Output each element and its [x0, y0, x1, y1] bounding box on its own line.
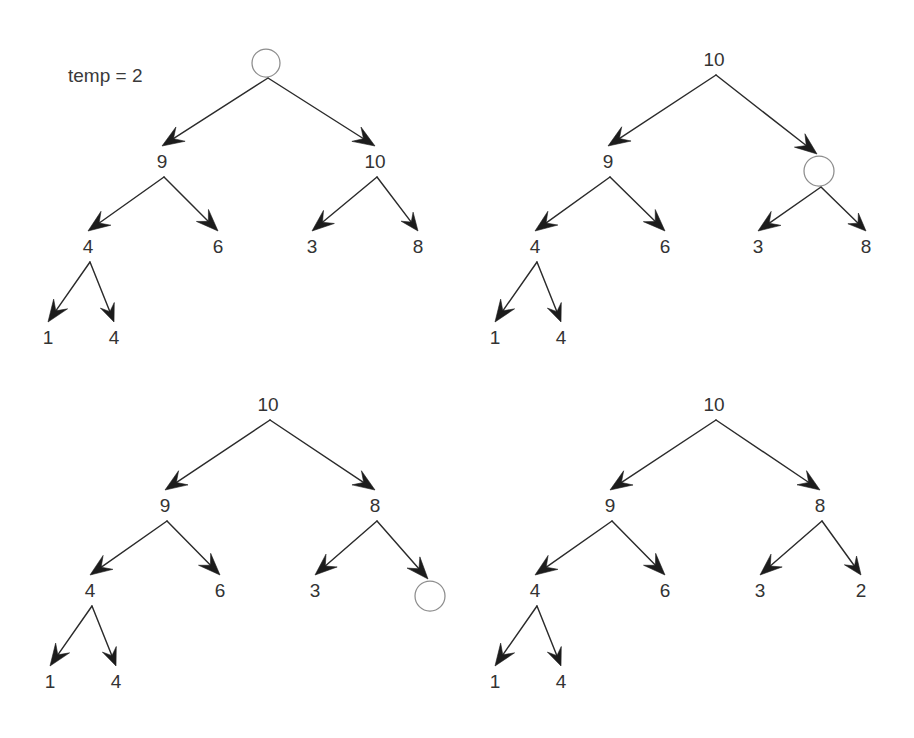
tree-edge: [57, 606, 92, 656]
node-value-label: 8: [413, 236, 424, 257]
tree-edge: [821, 187, 859, 224]
node-value-label: 4: [530, 236, 541, 257]
tree-edge: [167, 521, 212, 566]
node-value-label: 9: [603, 151, 614, 172]
node-value-label: 4: [530, 580, 541, 601]
node-value-label: 4: [85, 580, 96, 601]
tree-edge: [502, 606, 537, 656]
binary-tree-diagram: 9104638141094638141098463141098463214 te…: [0, 0, 914, 738]
tree-edge: [90, 262, 110, 313]
node-value-label: 6: [660, 580, 671, 601]
node-value-label: 10: [257, 394, 278, 415]
tree-step-2-nodes: 109463814: [490, 49, 872, 348]
tree-edge: [268, 78, 365, 140]
edge-arrowhead-icon: [797, 471, 820, 490]
tree-edge: [545, 521, 612, 568]
edge-arrowhead-icon: [50, 643, 70, 666]
edge-arrowhead-icon: [758, 211, 781, 231]
trees-group: 9104638141094638141098463141098463214: [43, 49, 872, 692]
node-value-label: 1: [45, 671, 56, 692]
edge-arrowhead-icon: [608, 127, 631, 146]
edge-arrowhead-icon: [312, 210, 334, 231]
node-value-label: 10: [364, 151, 385, 172]
tree-edge: [716, 420, 810, 483]
edge-arrowhead-icon: [535, 555, 558, 575]
node-value-label: 2: [856, 580, 867, 601]
tree-edge: [172, 78, 268, 139]
node-value-label: 8: [861, 236, 872, 257]
empty-node-circle[interactable]: [415, 581, 445, 611]
empty-node-circle[interactable]: [804, 156, 834, 186]
edge-arrowhead-icon: [844, 556, 861, 575]
node-value-label: 1: [43, 327, 54, 348]
node-value-label: 3: [755, 580, 766, 601]
edge-arrowhead-icon: [495, 643, 515, 666]
tree-edge: [610, 177, 656, 223]
tree-edge: [822, 521, 855, 567]
tree-step-1-nodes: 910463814: [43, 49, 424, 348]
edge-arrowhead-icon: [48, 299, 68, 322]
tree-step-4-nodes: 1098463214: [490, 394, 867, 692]
tree-edge: [55, 262, 90, 312]
node-value-label: 3: [307, 236, 318, 257]
tree-step-1-edges: [48, 78, 418, 322]
tree-edge: [612, 521, 657, 566]
tree-edge: [377, 521, 420, 570]
tree-edge: [716, 75, 807, 147]
node-value-label: 10: [703, 49, 724, 70]
tree-edge: [270, 420, 365, 483]
tree-step-4: 1098463214: [490, 394, 867, 692]
edge-arrowhead-icon: [352, 471, 375, 490]
edge-arrowhead-icon: [352, 127, 375, 146]
tree-edge: [620, 420, 716, 483]
tree-edge: [377, 177, 412, 223]
node-value-label: 4: [556, 671, 567, 692]
node-value-label: 9: [605, 495, 616, 516]
node-value-label: 9: [157, 151, 168, 172]
tree-step-2: 109463814: [490, 49, 872, 348]
node-value-label: 10: [703, 394, 724, 415]
tree-edge: [321, 177, 377, 223]
tree-step-3-nodes: 109846314: [45, 394, 445, 692]
tree-edge: [618, 75, 716, 139]
edge-arrowhead-icon: [401, 212, 418, 231]
tree-edge: [537, 262, 557, 313]
edge-arrowhead-icon: [535, 211, 558, 231]
edge-arrowhead-icon: [794, 134, 817, 154]
tree-step-2-edges: [495, 75, 866, 322]
tree-edge: [537, 606, 557, 657]
empty-node-circle[interactable]: [252, 49, 280, 77]
node-value-label: 9: [160, 495, 171, 516]
node-value-label: 6: [660, 236, 671, 257]
tree-edge: [769, 521, 822, 567]
node-value-label: 1: [490, 671, 501, 692]
tree-edge: [98, 177, 164, 224]
node-value-label: 3: [753, 236, 764, 257]
edge-arrowhead-icon: [610, 471, 633, 490]
tree-edge: [502, 262, 537, 312]
node-value-label: 6: [215, 580, 226, 601]
edge-arrowhead-icon: [162, 127, 185, 146]
node-value-label: 4: [83, 236, 94, 257]
tree-step-3: 109846314: [45, 394, 445, 692]
edge-arrowhead-icon: [88, 211, 111, 231]
edge-arrowhead-icon: [495, 299, 515, 322]
tree-step-4-edges: [495, 420, 861, 666]
node-value-label: 8: [370, 495, 381, 516]
figure-canvas: 9104638141094638141098463141098463214 te…: [0, 0, 914, 738]
tree-edge: [92, 606, 112, 657]
node-value-label: 4: [109, 327, 120, 348]
tree-edge: [324, 521, 377, 567]
tree-edge: [545, 177, 610, 224]
annotations-group: temp = 2: [68, 65, 142, 86]
tree-step-1: 910463814: [43, 49, 424, 348]
node-value-label: 6: [213, 236, 224, 257]
node-value-label: 4: [111, 671, 122, 692]
tree-edge: [164, 177, 209, 222]
node-value-label: 3: [310, 580, 321, 601]
edge-arrowhead-icon: [165, 471, 188, 490]
tree-edge: [768, 187, 821, 224]
tree-step-3-edges: [50, 420, 428, 666]
tree-edge: [100, 521, 167, 568]
temp-annotation: temp = 2: [68, 65, 142, 86]
